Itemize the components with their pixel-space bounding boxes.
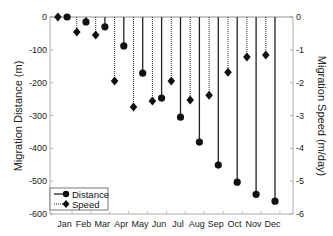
circle-marker-icon	[253, 191, 260, 198]
circle-marker-icon	[234, 179, 241, 186]
diamond-marker-icon	[186, 96, 194, 105]
left-tick-label: -400	[29, 143, 47, 153]
speed-stem	[54, 13, 62, 22]
distance-stem	[64, 13, 71, 20]
distance-stem	[139, 17, 146, 77]
left-tick-label: -200	[29, 78, 47, 88]
circle-marker-icon	[271, 198, 278, 205]
diamond-marker-icon	[205, 91, 213, 100]
diamond-marker-icon	[243, 53, 251, 62]
distance-stem	[177, 17, 184, 121]
distance-stem	[158, 17, 165, 102]
x-tick-label: Nov	[245, 219, 262, 229]
circle-marker-icon	[63, 191, 69, 197]
speed-stem	[92, 17, 100, 40]
x-tick-label: Feb	[76, 219, 92, 229]
diamond-marker-icon	[111, 77, 119, 86]
right-tick-label: -2	[296, 78, 304, 88]
right-tick-label: -1	[296, 45, 304, 55]
distance-stem	[101, 17, 108, 30]
diamond-marker-icon	[149, 97, 157, 106]
left-axis: 0-100-200-300-400-500-600	[29, 12, 53, 219]
x-tick-label: Aug	[189, 219, 205, 229]
diamond-marker-icon	[168, 77, 176, 86]
x-tick-label: Apr	[114, 219, 128, 229]
circle-marker-icon	[139, 70, 146, 77]
chart: 0-100-200-300-400-500-600 0-1-2-3-4-5-6 …	[0, 0, 333, 236]
left-tick-label: 0	[42, 12, 47, 22]
distance-stem	[271, 17, 278, 205]
x-tick-label: Sep	[208, 219, 224, 229]
distance-stem	[196, 17, 203, 146]
right-axis-title: Migration Speed (m/day)	[316, 56, 328, 176]
circle-marker-icon	[177, 114, 184, 121]
speed-stem	[224, 17, 232, 77]
right-tick-label: -5	[296, 176, 304, 186]
right-axis: 0-1-2-3-4-5-6	[290, 12, 304, 219]
distance-stem	[253, 17, 260, 198]
diamond-marker-icon	[262, 51, 270, 60]
speed-stem	[205, 17, 213, 100]
speed-stem	[130, 17, 138, 111]
left-tick-label: -600	[29, 209, 47, 219]
diamond-marker-icon	[224, 68, 232, 77]
x-tick-label: Dec	[264, 219, 281, 229]
left-axis-title: Migration Distance (m)	[12, 61, 24, 172]
left-tick-label: -100	[29, 45, 47, 55]
speed-stem	[73, 17, 81, 37]
right-tick-label: -3	[296, 111, 304, 121]
distance-stem	[82, 17, 89, 26]
circle-marker-icon	[101, 23, 108, 30]
diamond-marker-icon	[54, 13, 62, 22]
right-tick-label: -4	[296, 143, 304, 153]
speed-stem	[149, 17, 157, 106]
left-tick-label: -300	[29, 111, 47, 121]
circle-marker-icon	[158, 94, 165, 101]
diamond-marker-icon	[73, 28, 81, 37]
circle-marker-icon	[120, 42, 127, 49]
x-tick-label: May	[132, 219, 150, 229]
x-tick-label: Mar	[95, 219, 111, 229]
x-tick-label: Jan	[57, 219, 72, 229]
x-tick-label: Jul	[172, 219, 184, 229]
distance-stem	[234, 17, 241, 186]
diamond-marker-icon	[130, 102, 138, 111]
speed-stem	[186, 17, 194, 105]
legend-label-speed: Speed	[72, 199, 99, 210]
x-tick-label: Oct	[228, 219, 243, 229]
circle-marker-icon	[64, 13, 71, 20]
right-tick-label: 0	[296, 12, 301, 22]
diamond-marker-icon	[92, 31, 100, 40]
circle-marker-icon	[215, 161, 222, 168]
series-layer	[54, 13, 279, 205]
speed-stem	[168, 17, 176, 86]
legend: Distance Speed	[50, 188, 109, 210]
left-tick-label: -500	[29, 176, 47, 186]
distance-stem	[215, 17, 222, 169]
circle-marker-icon	[196, 138, 203, 145]
speed-stem	[111, 17, 119, 86]
speed-stem	[262, 17, 270, 60]
right-tick-label: -6	[296, 209, 304, 219]
distance-stem	[120, 17, 127, 49]
x-tick-label: Jun	[152, 219, 167, 229]
speed-stem	[243, 17, 251, 62]
circle-marker-icon	[82, 18, 89, 25]
